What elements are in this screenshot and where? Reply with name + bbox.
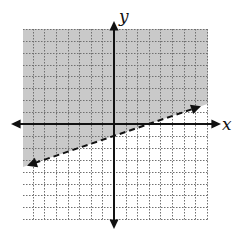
shaded-solution-region: [23, 29, 208, 167]
shaded-area: [23, 29, 208, 167]
inequality-graph: x y: [0, 0, 238, 237]
x-axis-right-arrow-icon: [211, 120, 221, 129]
x-axis-left-arrow-icon: [11, 120, 21, 129]
y-axis-up-arrow-icon: [110, 21, 119, 31]
coordinate-plane: x y: [0, 0, 238, 237]
y-axis-down-arrow-icon: [110, 219, 119, 229]
y-axis-label: y: [118, 6, 129, 26]
x-axis-label: x: [222, 114, 232, 134]
